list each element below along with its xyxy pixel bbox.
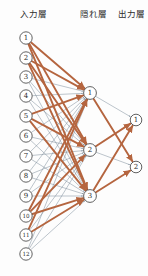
node-label-6: 6: [24, 132, 29, 140]
node-label-2: 2: [24, 54, 28, 62]
edges-strong-group: [29, 42, 133, 231]
node-label-11: 11: [22, 232, 29, 238]
node-9: 9: [20, 190, 32, 202]
edge-h1-to-o1: [96, 97, 130, 117]
node-label-o1: 1: [134, 116, 138, 124]
edge-5-to-h1: [32, 95, 83, 113]
node-12: 12: [20, 248, 32, 260]
node-6: 6: [20, 130, 32, 142]
node-8: 8: [20, 170, 32, 182]
node-2: 2: [20, 52, 32, 64]
node-label-8: 8: [24, 172, 28, 180]
label-hidden-layer: 隠れ層: [80, 9, 107, 19]
node-h3: 3: [84, 190, 97, 203]
edge-h1-to-o2: [94, 99, 133, 161]
node-label-4: 4: [24, 92, 29, 100]
node-4: 4: [20, 90, 32, 102]
node-o2: 2: [130, 161, 142, 173]
edge-8-to-h1: [30, 99, 85, 171]
node-label-9: 9: [24, 192, 28, 200]
label-output-layer: 出力層: [118, 9, 145, 19]
node-h2: 2: [84, 144, 97, 157]
node-label-7: 7: [24, 152, 28, 160]
node-label-h2: 2: [88, 146, 92, 154]
label-input-layer: 入力層: [20, 9, 47, 19]
node-10: 10: [20, 210, 32, 222]
node-label-h1: 1: [88, 89, 92, 97]
node-h1: 1: [84, 87, 97, 100]
network-svg: 12345678910111212312 入力層 隠れ層 出力層: [0, 0, 148, 276]
node-label-3: 3: [24, 73, 28, 81]
node-5: 5: [20, 110, 32, 122]
node-o1: 1: [130, 114, 142, 126]
node-label-h3: 3: [88, 192, 92, 200]
edge-h2-to-o1: [96, 124, 131, 147]
node-label-5: 5: [24, 112, 28, 120]
node-3: 3: [20, 71, 32, 83]
node-label-1: 1: [24, 34, 28, 42]
edge-h3-to-o2: [96, 171, 131, 193]
node-label-10: 10: [22, 213, 30, 219]
node-7: 7: [20, 150, 32, 162]
node-11: 11: [20, 229, 32, 241]
node-label-12: 12: [22, 251, 30, 257]
edge-3-to-h2: [30, 82, 85, 144]
neural-network-diagram: 12345678910111212312 入力層 隠れ層 出力層: [0, 0, 148, 276]
node-1: 1: [20, 32, 32, 44]
node-label-o2: 2: [134, 163, 138, 171]
